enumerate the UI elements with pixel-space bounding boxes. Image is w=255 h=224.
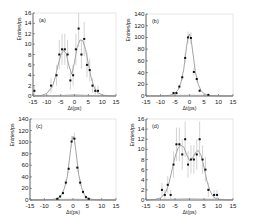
y-tick-label: 20 xyxy=(22,184,29,191)
data-point xyxy=(193,71,195,73)
data-point xyxy=(67,54,69,56)
data-point xyxy=(167,184,169,186)
data-point xyxy=(199,138,201,140)
data-point xyxy=(83,38,85,40)
x-tick-label: -5 xyxy=(56,202,62,209)
x-tick-label: 15 xyxy=(230,202,237,209)
data-point xyxy=(196,153,198,155)
x-tick-label: 5 xyxy=(86,202,90,209)
y-axis-label: Entries/ps xyxy=(125,18,131,41)
figure-canvas: -15-10-50510150246810121416Δt(ps)Entries… xyxy=(0,0,255,224)
data-point xyxy=(204,169,206,171)
data-point xyxy=(78,28,80,30)
y-tick-label: 60 xyxy=(138,57,145,64)
data-point xyxy=(187,164,189,166)
data-point xyxy=(73,138,75,140)
data-point xyxy=(69,79,71,81)
data-point xyxy=(193,159,195,161)
data-point xyxy=(58,54,60,56)
data-point xyxy=(175,92,177,94)
data-point xyxy=(164,194,166,196)
data-point xyxy=(64,48,66,50)
y-tick-label: 20 xyxy=(138,80,145,87)
x-tick-label: 10 xyxy=(99,98,106,105)
data-point xyxy=(79,182,81,184)
plot-frame xyxy=(30,119,116,200)
x-tick-label: -5 xyxy=(172,98,178,105)
fit-curve xyxy=(146,34,233,96)
data-point xyxy=(61,48,63,50)
y-tick-label: 12 xyxy=(25,30,32,37)
y-tick-label: 6 xyxy=(141,166,145,173)
y-tick-label: 100 xyxy=(18,138,29,145)
fit-curve xyxy=(146,145,233,200)
data-point xyxy=(59,196,61,198)
data-point xyxy=(71,141,73,143)
data-point xyxy=(216,194,218,196)
data-point xyxy=(80,54,82,56)
data-point xyxy=(207,189,209,191)
data-point xyxy=(75,48,77,50)
y-tick-label: 80 xyxy=(22,150,29,157)
panel-label: (a) xyxy=(39,17,46,23)
x-tick-label: 10 xyxy=(215,202,222,209)
data-point xyxy=(170,194,172,196)
x-tick-label: 15 xyxy=(230,98,237,105)
y-tick-label: 120 xyxy=(134,22,145,29)
data-point xyxy=(89,69,91,71)
y-tick-label: 80 xyxy=(138,45,145,52)
data-point xyxy=(72,74,74,76)
x-axis-label: Δt(ps) xyxy=(183,209,197,215)
data-point xyxy=(56,74,58,76)
y-tick-label: 140 xyxy=(134,10,145,17)
x-tick-label: 5 xyxy=(202,202,206,209)
y-tick-label: 2 xyxy=(28,82,32,89)
y-axis-label: Entries/ps xyxy=(9,123,15,146)
y-tick-label: 14 xyxy=(138,125,145,132)
fit-curve xyxy=(30,136,116,200)
y-tick-label: 10 xyxy=(25,40,32,47)
x-axis-label: Δt(ps) xyxy=(68,105,82,111)
y-tick-label: 12 xyxy=(138,135,145,142)
y-tick-label: 60 xyxy=(22,161,29,168)
plot-frame xyxy=(33,13,116,96)
data-point xyxy=(173,164,175,166)
data-point xyxy=(178,143,180,145)
y-tick-label: 4 xyxy=(141,176,145,183)
panel-label: (c) xyxy=(36,123,43,129)
x-tick-label: -5 xyxy=(172,202,178,209)
data-point xyxy=(190,159,192,161)
fit-curve xyxy=(33,40,116,96)
data-point xyxy=(91,85,93,87)
figure: -15-10-50510150246810121416Δt(ps)Entries… xyxy=(0,0,255,224)
panel-c: -15-10-5051015020406080100120140Δt(ps)En… xyxy=(9,115,120,215)
x-tick-label: -10 xyxy=(156,98,166,105)
data-point xyxy=(187,36,189,38)
y-tick-label: 16 xyxy=(138,115,145,122)
y-tick-label: 100 xyxy=(134,33,145,40)
plot-frame xyxy=(146,14,233,96)
y-tick-label: 40 xyxy=(22,173,29,180)
y-tick-label: 16 xyxy=(25,9,32,16)
y-tick-label: 0 xyxy=(25,196,29,203)
x-axis-label: Δt(ps) xyxy=(183,105,197,111)
data-point xyxy=(97,90,99,92)
panel-b: -15-10-5051015020406080100120140Δt(ps)En… xyxy=(125,10,237,111)
data-point xyxy=(85,196,87,198)
data-point xyxy=(76,167,78,169)
panel-label: (b) xyxy=(152,18,159,24)
y-tick-label: 8 xyxy=(141,156,145,163)
y-tick-label: 120 xyxy=(18,127,29,134)
data-point xyxy=(86,64,88,66)
data-point xyxy=(213,194,215,196)
data-point xyxy=(199,90,201,92)
y-axis-label: Entries/ps xyxy=(129,123,135,146)
data-point xyxy=(190,37,192,39)
data-point xyxy=(207,94,209,96)
data-point xyxy=(33,90,35,92)
x-tick-label: 10 xyxy=(215,98,222,105)
data-point xyxy=(184,57,186,59)
x-tick-label: 0 xyxy=(73,98,77,105)
y-tick-label: 0 xyxy=(141,92,145,99)
x-tick-label: 15 xyxy=(113,98,120,105)
